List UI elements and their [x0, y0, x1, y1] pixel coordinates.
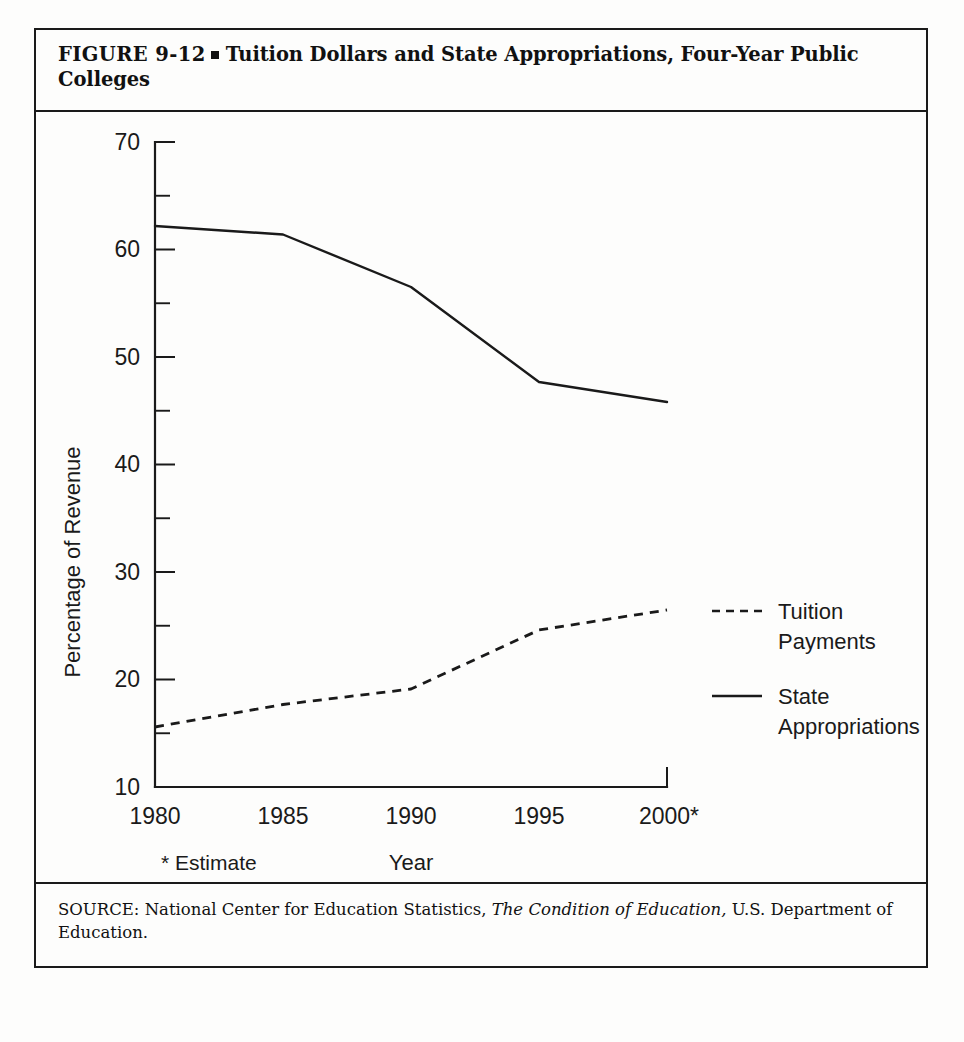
ytick-label-20: 20 [114, 666, 140, 692]
figure-source-bar: SOURCE: National Center for Education St… [36, 882, 926, 966]
ytick-label-40: 40 [114, 451, 140, 477]
source-publication-title: The Condition of Education, [492, 900, 727, 919]
figure-container: FIGURE 9-12Tuition Dollars and State App… [34, 28, 928, 968]
y-axis-tick-labels: 70 60 50 40 30 20 10 [114, 129, 140, 800]
figure-title-bar: FIGURE 9-12Tuition Dollars and State App… [36, 30, 926, 112]
y-axis-title: Percentage of Revenue [60, 446, 85, 677]
x-axis-title: Year [389, 850, 433, 875]
xtick-label-1985: 1985 [257, 803, 308, 829]
legend-label-state-line2: Appropriations [778, 714, 920, 739]
square-bullet-icon [211, 51, 219, 59]
figure-title: FIGURE 9-12Tuition Dollars and State App… [58, 42, 904, 92]
source-prefix: SOURCE: National Center for Education St… [58, 900, 486, 919]
xtick-label-1990: 1990 [385, 803, 436, 829]
chart-legend: Tuition Payments State Appropriations [712, 599, 920, 739]
ytick-label-60: 60 [114, 236, 140, 262]
xtick-label-1980: 1980 [129, 803, 180, 829]
xtick-label-2000: 2000* [639, 803, 699, 829]
y-axis-major-ticks [155, 250, 175, 680]
ytick-label-70: 70 [114, 129, 140, 155]
series-state-appropriations [155, 226, 667, 402]
line-chart-svg: 70 60 50 40 30 20 10 Percentage of Reven… [36, 112, 926, 884]
ytick-label-10: 10 [114, 774, 140, 800]
chart-plot-area: 70 60 50 40 30 20 10 Percentage of Reven… [36, 112, 926, 884]
series-tuition-payments [155, 610, 667, 727]
legend-label-tuition-line1: Tuition [778, 599, 843, 624]
figure-number: FIGURE 9-12 [58, 43, 206, 66]
ytick-label-50: 50 [114, 344, 140, 370]
source-note: SOURCE: National Center for Education St… [58, 898, 900, 944]
estimate-footnote: * Estimate [161, 851, 257, 874]
ytick-label-30: 30 [114, 559, 140, 585]
x-axis-tick-labels: 1980 1985 1990 1995 2000* [129, 803, 699, 829]
xtick-label-1995: 1995 [513, 803, 564, 829]
legend-label-tuition-line2: Payments [778, 629, 876, 654]
legend-label-state-line1: State [778, 684, 829, 709]
